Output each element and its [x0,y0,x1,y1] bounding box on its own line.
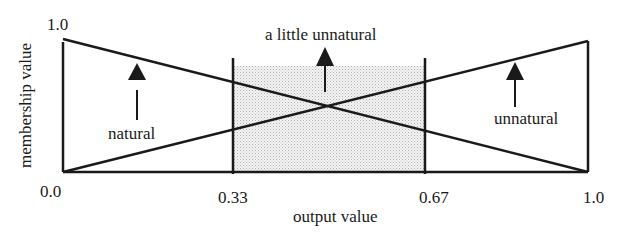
x-tick-067: 0.67 [419,188,449,207]
x-tick-0: 0.0 [40,182,61,201]
little-unnatural-region [233,66,425,172]
y-tick-1: 1.0 [47,15,68,34]
x-tick-1: 1.0 [583,188,604,207]
unnatural-arrow-icon [506,62,524,107]
natural-label: natural [108,124,155,143]
x-tick-033: 0.33 [218,188,248,207]
natural-arrow-icon [128,63,146,120]
little-unnatural-label: a little unnatural [265,25,377,44]
membership-function-diagram: 1.0 0.0 0.33 0.67 1.0 output value membe… [0,0,623,237]
unnatural-label: unnatural [494,109,558,128]
x-axis-label: output value [293,207,378,226]
y-axis-label: membership value [16,43,35,168]
